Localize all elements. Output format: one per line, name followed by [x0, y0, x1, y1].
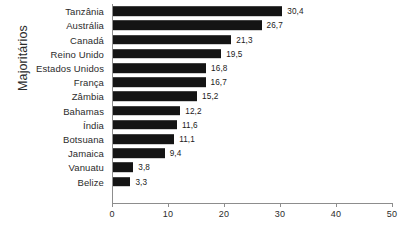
bar — [112, 77, 206, 87]
x-axis-tick-label: 10 — [163, 209, 173, 219]
bar — [112, 106, 180, 116]
category-label-row: Tanzânia — [0, 4, 108, 18]
bar-value-label: 16,8 — [211, 63, 227, 72]
x-axis-tick — [168, 203, 169, 207]
x-axis-tick — [280, 203, 281, 207]
bar — [112, 92, 197, 102]
x-axis-tick-label: 0 — [109, 209, 114, 219]
bar — [112, 134, 174, 144]
category-label: França — [74, 77, 104, 88]
bar-row: 21,3 — [112, 32, 392, 46]
category-label-row: Bahamas — [0, 103, 108, 117]
bar-value-label: 9,4 — [170, 149, 182, 158]
bar-row: 9,4 — [112, 146, 392, 160]
category-label-row: Zâmbia — [0, 89, 108, 103]
category-label: Tanzânia — [65, 6, 104, 17]
category-label: Botsuana — [63, 133, 104, 144]
bar-value-label: 16,7 — [211, 78, 227, 87]
plot-area: 30,426,721,319,516,816,715,212,211,611,1… — [112, 4, 392, 203]
bar — [112, 163, 133, 173]
bar-row: 16,7 — [112, 75, 392, 89]
category-label-row: Austrália — [0, 18, 108, 32]
bar-value-label: 21,3 — [236, 35, 252, 44]
x-axis-line — [112, 203, 393, 204]
bar-row: 26,7 — [112, 18, 392, 32]
category-label: Vanuatu — [69, 162, 104, 173]
category-label: Bahamas — [63, 105, 104, 116]
category-label: Estados Unidos — [36, 62, 104, 73]
bar-value-label: 26,7 — [267, 21, 283, 30]
x-axis-tick-label: 40 — [331, 209, 341, 219]
bar-value-label: 3,8 — [138, 163, 150, 172]
category-label-row: França — [0, 75, 108, 89]
category-label: Zâmbia — [72, 91, 104, 102]
bar-row: 3,8 — [112, 160, 392, 174]
x-axis-tick — [392, 203, 393, 207]
category-axis-labels: TanzâniaAustráliaCanadáReino UnidoEstado… — [0, 4, 108, 203]
category-label-row: Botsuana — [0, 132, 108, 146]
y-axis-line — [112, 4, 113, 203]
category-label-row: Vanuatu — [0, 160, 108, 174]
x-axis-tick — [336, 203, 337, 207]
bar-row: 12,2 — [112, 103, 392, 117]
x-axis-tick-label: 50 — [387, 209, 397, 219]
bar-value-label: 15,2 — [202, 92, 218, 101]
bar — [112, 177, 130, 187]
bar — [112, 35, 231, 45]
bar-value-label: 30,4 — [287, 7, 303, 16]
bar — [112, 49, 221, 59]
category-label-row: Canadá — [0, 32, 108, 46]
bar-row: 16,8 — [112, 61, 392, 75]
x-axis-tick-label: 30 — [275, 209, 285, 219]
bar — [112, 63, 206, 73]
category-label-row: Jamaica — [0, 146, 108, 160]
bar — [112, 6, 282, 16]
category-label: Índia — [83, 119, 104, 130]
category-label: Canadá — [70, 34, 104, 45]
category-label: Belize — [78, 176, 104, 187]
bar-value-label: 3,3 — [135, 177, 147, 186]
bar-row: 19,5 — [112, 47, 392, 61]
category-label: Jamaica — [68, 148, 104, 159]
bar-row: 11,6 — [112, 118, 392, 132]
bar-row: 11,1 — [112, 132, 392, 146]
x-axis-tick-label: 20 — [219, 209, 229, 219]
bar-row: 30,4 — [112, 4, 392, 18]
bar-value-label: 19,5 — [226, 49, 242, 58]
bar-value-label: 12,2 — [185, 106, 201, 115]
category-label-row: Reino Unido — [0, 47, 108, 61]
category-label: Austrália — [66, 20, 104, 31]
x-axis-tick — [112, 203, 113, 207]
bar — [112, 120, 177, 130]
bar-value-label: 11,6 — [182, 120, 198, 129]
category-label-row: Estados Unidos — [0, 61, 108, 75]
bar — [112, 21, 262, 31]
category-label: Reino Unido — [51, 48, 104, 59]
bar-chart: Majoritários TanzâniaAustráliaCanadáRein… — [0, 0, 414, 232]
bar-row: 3,3 — [112, 174, 392, 188]
category-label-row: Belize — [0, 174, 108, 188]
bar-value-label: 11,1 — [179, 134, 195, 143]
x-axis-tick — [224, 203, 225, 207]
bar-row: 15,2 — [112, 89, 392, 103]
category-label-row: Índia — [0, 118, 108, 132]
bar — [112, 148, 165, 158]
